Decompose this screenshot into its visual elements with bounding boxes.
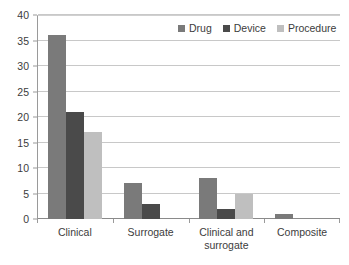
bar-drug — [124, 183, 142, 219]
x-axis-tick-mark — [37, 219, 38, 223]
legend-entry-drug: Drug — [178, 23, 212, 34]
y-axis-tick-label: 40 — [17, 10, 29, 21]
y-axis-tick-label: 5 — [23, 188, 29, 199]
legend-entry-device: Device — [223, 23, 266, 34]
x-axis-tick-label: Clinical — [35, 226, 115, 239]
bars-layer — [37, 15, 340, 219]
bar-group — [189, 15, 265, 219]
bar-drug — [48, 35, 66, 219]
legend-swatch-icon — [277, 25, 284, 32]
legend-swatch-icon — [223, 25, 230, 32]
y-axis-tick-label: 30 — [17, 61, 29, 72]
x-axis-tick-label: Composite — [262, 226, 342, 239]
bar-device — [142, 204, 160, 219]
legend-label: Procedure — [288, 23, 336, 34]
x-axis-tick-mark — [264, 219, 265, 223]
bar-procedure — [84, 132, 102, 219]
y-axis-tick-label: 20 — [17, 112, 29, 123]
y-axis: 0510152025303540 — [0, 15, 37, 219]
legend-label: Drug — [189, 23, 212, 34]
legend-label: Device — [234, 23, 266, 34]
bar-group — [264, 15, 340, 219]
y-axis-tick-label: 15 — [17, 137, 29, 148]
bar-group — [113, 15, 189, 219]
x-axis-tick-label: Surrogate — [111, 226, 191, 239]
bar-group — [37, 15, 113, 219]
x-axis: ClinicalSurrogateClinical and surrogateC… — [37, 219, 340, 265]
bar-device — [66, 112, 84, 219]
x-axis-tick-label: Clinical and surrogate — [186, 226, 266, 252]
bar-drug — [199, 178, 217, 219]
y-axis-tick-label: 10 — [17, 163, 29, 174]
bar-device — [217, 209, 235, 219]
x-axis-tick-mark — [339, 219, 340, 223]
y-axis-tick-label: 25 — [17, 86, 29, 97]
x-axis-tick-mark — [113, 219, 114, 223]
bar-chart: 0510152025303540 ClinicalSurrogateClinic… — [0, 0, 349, 265]
x-axis-tick-mark — [189, 219, 190, 223]
y-axis-tick-label: 0 — [23, 214, 29, 225]
y-axis-tick-label: 35 — [17, 35, 29, 46]
chart-legend: DrugDeviceProcedure — [178, 23, 336, 34]
bar-procedure — [235, 194, 253, 220]
legend-swatch-icon — [178, 25, 185, 32]
legend-entry-procedure: Procedure — [277, 23, 336, 34]
